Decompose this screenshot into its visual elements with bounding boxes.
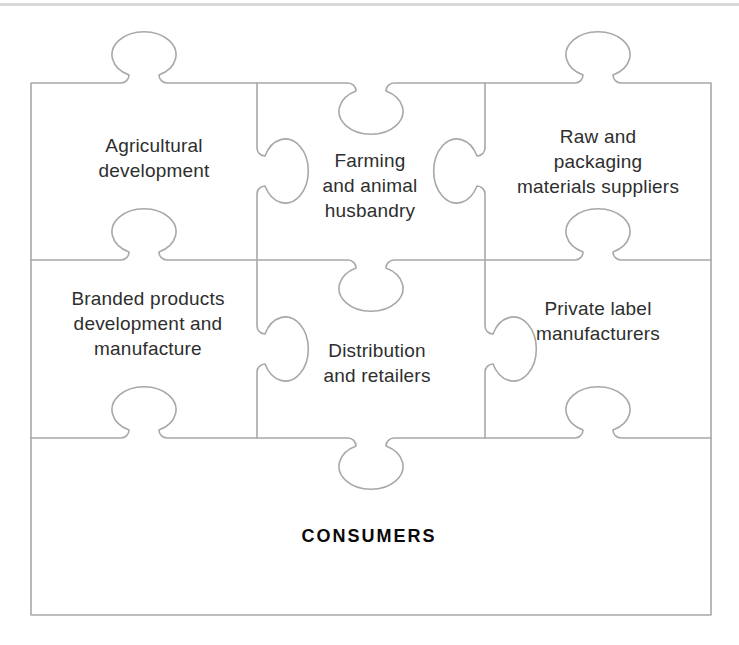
puzzle-piece-branded-products-development-and-manufacture: Branded products development and manufac… [40,285,256,361]
puzzle-piece-raw-and-packaging-materials-suppliers: Raw and packaging materials suppliers [490,123,706,199]
puzzle-piece-farming-and-animal-husbandry: Farming and animal husbandry [270,147,470,223]
page: Agricultural development Farming and ani… [0,0,739,645]
puzzle-piece-distribution-and-retailers: Distribution and retailers [282,336,472,390]
puzzle-piece-consumers: CONSUMERS [29,516,709,556]
puzzle-row-boundary-2 [31,387,711,490]
puzzle-piece-agricultural-development: Agricultural development [54,126,254,190]
puzzle-piece-private-label-manufacturers: Private label manufacturers [490,294,706,348]
